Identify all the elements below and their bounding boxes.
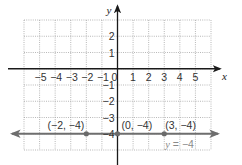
x-tick-label: −5 <box>35 71 47 83</box>
x-axis-label: x <box>221 70 227 82</box>
x-tick-label: −2 <box>81 71 93 83</box>
coordinate-plane: −5−4−3−2−101234521−1−2−3−4 (−2, −4)(0, −… <box>0 0 242 165</box>
x-tick-label: 4 <box>177 71 183 83</box>
point-label: (−2, −4) <box>48 119 85 131</box>
x-tick-label: −4 <box>50 71 62 83</box>
y-tick-label: −3 <box>103 112 115 124</box>
x-tick-label: −3 <box>66 71 78 83</box>
y-tick-label: −2 <box>103 95 115 107</box>
x-tick-label: 2 <box>146 71 152 83</box>
point-label: (0, −4) <box>122 119 153 131</box>
data-point <box>115 131 120 136</box>
equation-label: y = −4 <box>164 138 194 150</box>
equation-value: = −4 <box>170 138 194 150</box>
x-tick-label: 5 <box>192 71 198 83</box>
y-tick-label: −1 <box>103 79 115 91</box>
x-tick-label: 1 <box>130 71 136 83</box>
y-axis-label: y <box>106 4 112 16</box>
y-tick-label: 2 <box>109 30 115 42</box>
point-label: (3, −4) <box>165 119 196 131</box>
data-point <box>162 131 167 136</box>
y-tick-label: −4 <box>103 128 115 140</box>
y-tick-label: 1 <box>109 47 115 59</box>
data-point <box>84 131 89 136</box>
x-tick-label: 3 <box>161 71 167 83</box>
